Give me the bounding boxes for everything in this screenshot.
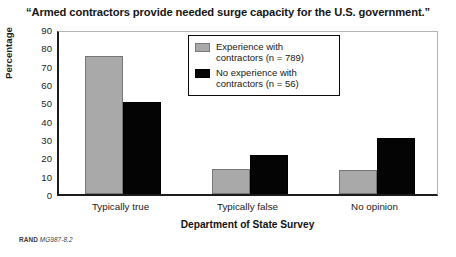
rand-wordmark: RAND bbox=[19, 236, 38, 243]
x-axis-title: Department of State Survey bbox=[57, 219, 438, 230]
legend-swatch-black bbox=[195, 69, 210, 78]
legend-label-line: Experience with bbox=[216, 41, 304, 52]
chart-title: “Armed contractors provide needed surge … bbox=[0, 6, 456, 18]
bar-group bbox=[339, 32, 415, 194]
bar bbox=[85, 56, 123, 194]
bar-chart-figure: “Armed contractors provide needed surge … bbox=[0, 0, 456, 257]
legend-label-line: contractors (n = 789) bbox=[216, 52, 304, 63]
y-axis-tick-label: 70 bbox=[30, 63, 52, 73]
bar bbox=[123, 102, 161, 194]
y-axis-tick-label: 10 bbox=[30, 173, 52, 183]
figure-source-note: RAND MG987-8.2 bbox=[19, 236, 73, 243]
y-axis-tick-label: 20 bbox=[30, 154, 52, 164]
y-axis-title: Percentage bbox=[3, 8, 14, 98]
x-axis-category-label: No opinion bbox=[311, 201, 438, 212]
y-axis-tick-label: 80 bbox=[30, 44, 52, 54]
legend-label-line: No experience with bbox=[216, 67, 299, 78]
bar bbox=[250, 155, 288, 194]
y-axis-tick-label: 30 bbox=[30, 136, 52, 146]
legend-swatch-gray bbox=[195, 43, 210, 52]
y-axis-tick-label: 50 bbox=[30, 99, 52, 109]
legend-entry: Experience withcontractors (n = 789) bbox=[195, 41, 331, 64]
x-axis-category-label: Typically false bbox=[184, 201, 311, 212]
bar bbox=[339, 170, 377, 194]
legend-label: Experience withcontractors (n = 789) bbox=[216, 41, 304, 64]
legend-label-line: contractors (n = 56) bbox=[216, 78, 299, 89]
bar-group bbox=[85, 32, 161, 194]
y-axis-tick-label: 0 bbox=[30, 191, 52, 201]
legend-label: No experience withcontractors (n = 56) bbox=[216, 67, 299, 90]
figure-number: MG987-8.2 bbox=[40, 236, 73, 243]
bar bbox=[212, 169, 250, 194]
y-axis-tick-labels: 0102030405060708090 bbox=[26, 31, 52, 196]
legend-entry: No experience withcontractors (n = 56) bbox=[195, 67, 331, 90]
bar bbox=[377, 138, 415, 194]
y-axis-tick-label: 90 bbox=[30, 26, 52, 36]
y-axis-tick-label: 60 bbox=[30, 81, 52, 91]
chart-legend: Experience withcontractors (n = 789)No e… bbox=[188, 35, 340, 96]
y-axis-tick-label: 40 bbox=[30, 118, 52, 128]
x-axis-category-label: Typically true bbox=[57, 201, 184, 212]
